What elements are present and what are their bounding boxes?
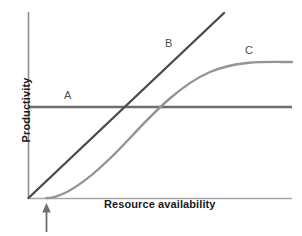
threshold-arrow-icon	[42, 203, 51, 232]
series-label-a: A	[64, 90, 72, 101]
series-line-b	[29, 13, 225, 198]
y-axis-label: Productivity	[20, 55, 32, 165]
chart-figure: A B C Productivity Resource availability	[0, 0, 302, 236]
x-axis-label: Resource availability	[104, 198, 216, 210]
series-label-b: B	[165, 38, 173, 49]
series-curve-c	[47, 62, 293, 198]
series-label-c: C	[245, 45, 253, 56]
